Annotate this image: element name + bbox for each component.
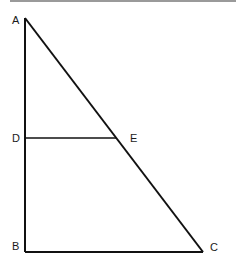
label-a: A <box>12 14 20 26</box>
label-b: B <box>12 240 19 252</box>
triangle-diagram: A D E B C <box>0 0 236 269</box>
label-d: D <box>12 132 20 144</box>
label-c: C <box>210 241 218 253</box>
segment-ac <box>25 18 203 252</box>
label-e: E <box>130 132 137 144</box>
